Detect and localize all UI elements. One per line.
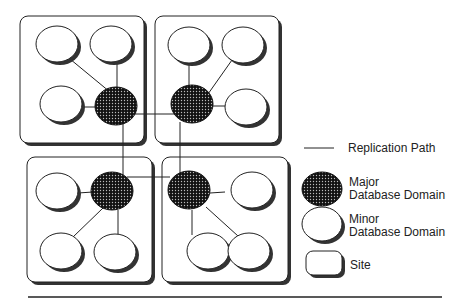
major-domain-icon xyxy=(302,172,342,206)
minor-domain-icon xyxy=(302,207,345,244)
site-icon xyxy=(306,251,345,278)
major-domain xyxy=(91,172,133,210)
legend-site: Site xyxy=(350,259,371,272)
legend-major-line2: Database Domain xyxy=(349,189,445,202)
major-domain xyxy=(168,171,210,209)
major-domain xyxy=(171,85,213,123)
major-domain xyxy=(95,87,137,125)
legend-replication-path: Replication Path xyxy=(348,142,435,155)
legend-minor-line2: Database Domain xyxy=(349,226,445,239)
legend xyxy=(302,148,345,278)
